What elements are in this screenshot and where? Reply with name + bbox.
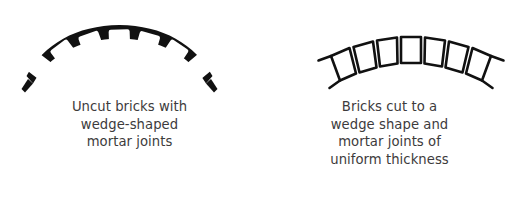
caption-line: mortar joints [0, 133, 259, 151]
arch-body-cut [319, 37, 504, 88]
caption-uncut-bricks: Uncut bricks with wedge-shaped mortar jo… [0, 98, 259, 151]
caption-cut-bricks: Bricks cut to a wedge shape and mortar j… [260, 98, 519, 168]
caption-line: Bricks cut to a [260, 98, 519, 116]
arch-cut-bricks-diagram [260, 0, 519, 96]
caption-line: uniform thickness [260, 151, 519, 169]
brick-arch-comparison-figure: Uncut bricks with wedge-shaped mortar jo… [0, 0, 519, 220]
arch-uncut-bricks-diagram [0, 0, 259, 96]
panel-cut-bricks: Bricks cut to a wedge shape and mortar j… [260, 0, 519, 220]
caption-line: mortar joints of [260, 133, 519, 151]
panel-uncut-bricks: Uncut bricks with wedge-shaped mortar jo… [0, 0, 259, 220]
caption-line: wedge shape and [260, 116, 519, 134]
caption-line: wedge-shaped [0, 116, 259, 134]
caption-line: Uncut bricks with [0, 98, 259, 116]
arch-body-uncut [22, 25, 218, 93]
